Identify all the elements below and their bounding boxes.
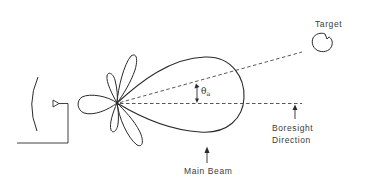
boresight-label: Boresight xyxy=(272,124,313,133)
angle-arrowhead-bottom-icon xyxy=(195,99,199,104)
angle-arrowhead-top-icon xyxy=(195,84,200,89)
main-lobe xyxy=(117,57,244,132)
feed-horn-icon xyxy=(53,100,59,107)
side-lobe-upper-1 xyxy=(117,55,137,103)
target-label: Target xyxy=(315,20,342,29)
reflector-dish xyxy=(32,77,38,131)
feed-line xyxy=(17,104,68,144)
target-line xyxy=(120,52,302,103)
main-beam-label: Main Beam xyxy=(184,167,232,176)
angle-label: θa xyxy=(201,87,210,98)
angle-subscript: a xyxy=(206,90,210,98)
boresight-arrowhead-icon xyxy=(293,105,298,111)
direction-label: Direction xyxy=(272,136,311,145)
target-object xyxy=(312,33,332,51)
back-lobe xyxy=(78,95,117,114)
main-beam-arrowhead-icon xyxy=(205,147,210,154)
side-lobe-lower-1 xyxy=(117,103,142,146)
